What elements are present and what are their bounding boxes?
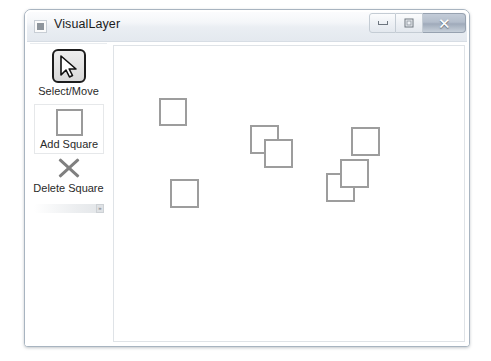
canvas-square[interactable]	[170, 179, 199, 208]
client-area: Select/Move Add Square Delete Square »	[25, 42, 469, 346]
app-square-icon	[34, 20, 47, 33]
chevron-double-right-icon[interactable]: »	[96, 204, 104, 213]
x-cross-icon	[55, 156, 83, 180]
tool-panel: Select/Move Add Square Delete Square »	[25, 42, 112, 346]
close-button[interactable]: ✕	[423, 13, 466, 33]
tool-panel-divider	[30, 43, 107, 44]
toolbar-overflow-strip[interactable]: »	[34, 204, 104, 213]
canvas-square[interactable]	[351, 127, 380, 156]
tool-button-add-square[interactable]: Add Square	[34, 104, 104, 154]
drawing-canvas[interactable]	[113, 45, 465, 342]
canvas-square[interactable]	[159, 98, 187, 126]
window-title: VisualLayer	[54, 17, 120, 31]
window-controls: ✕	[369, 12, 466, 33]
tool-label-select-move: Select/Move	[38, 85, 99, 98]
canvas-square[interactable]	[340, 159, 369, 188]
cursor-arrow-icon	[52, 49, 86, 83]
tool-label-add-square: Add Square	[40, 138, 98, 151]
tool-button-delete-square[interactable]: Delete Square	[25, 156, 112, 195]
tool-button-select-move[interactable]: Select/Move	[25, 49, 112, 98]
maximize-icon	[405, 18, 414, 27]
canvas-square[interactable]	[264, 139, 293, 168]
title-bar[interactable]: VisualLayer ✕	[25, 10, 469, 42]
application-window: VisualLayer ✕	[24, 9, 470, 347]
minimize-icon	[378, 21, 388, 25]
minimize-button[interactable]	[369, 13, 396, 33]
tool-label-delete-square: Delete Square	[33, 182, 103, 195]
close-icon: ✕	[438, 15, 451, 30]
square-outline-icon	[56, 109, 83, 136]
maximize-button[interactable]	[396, 13, 423, 33]
